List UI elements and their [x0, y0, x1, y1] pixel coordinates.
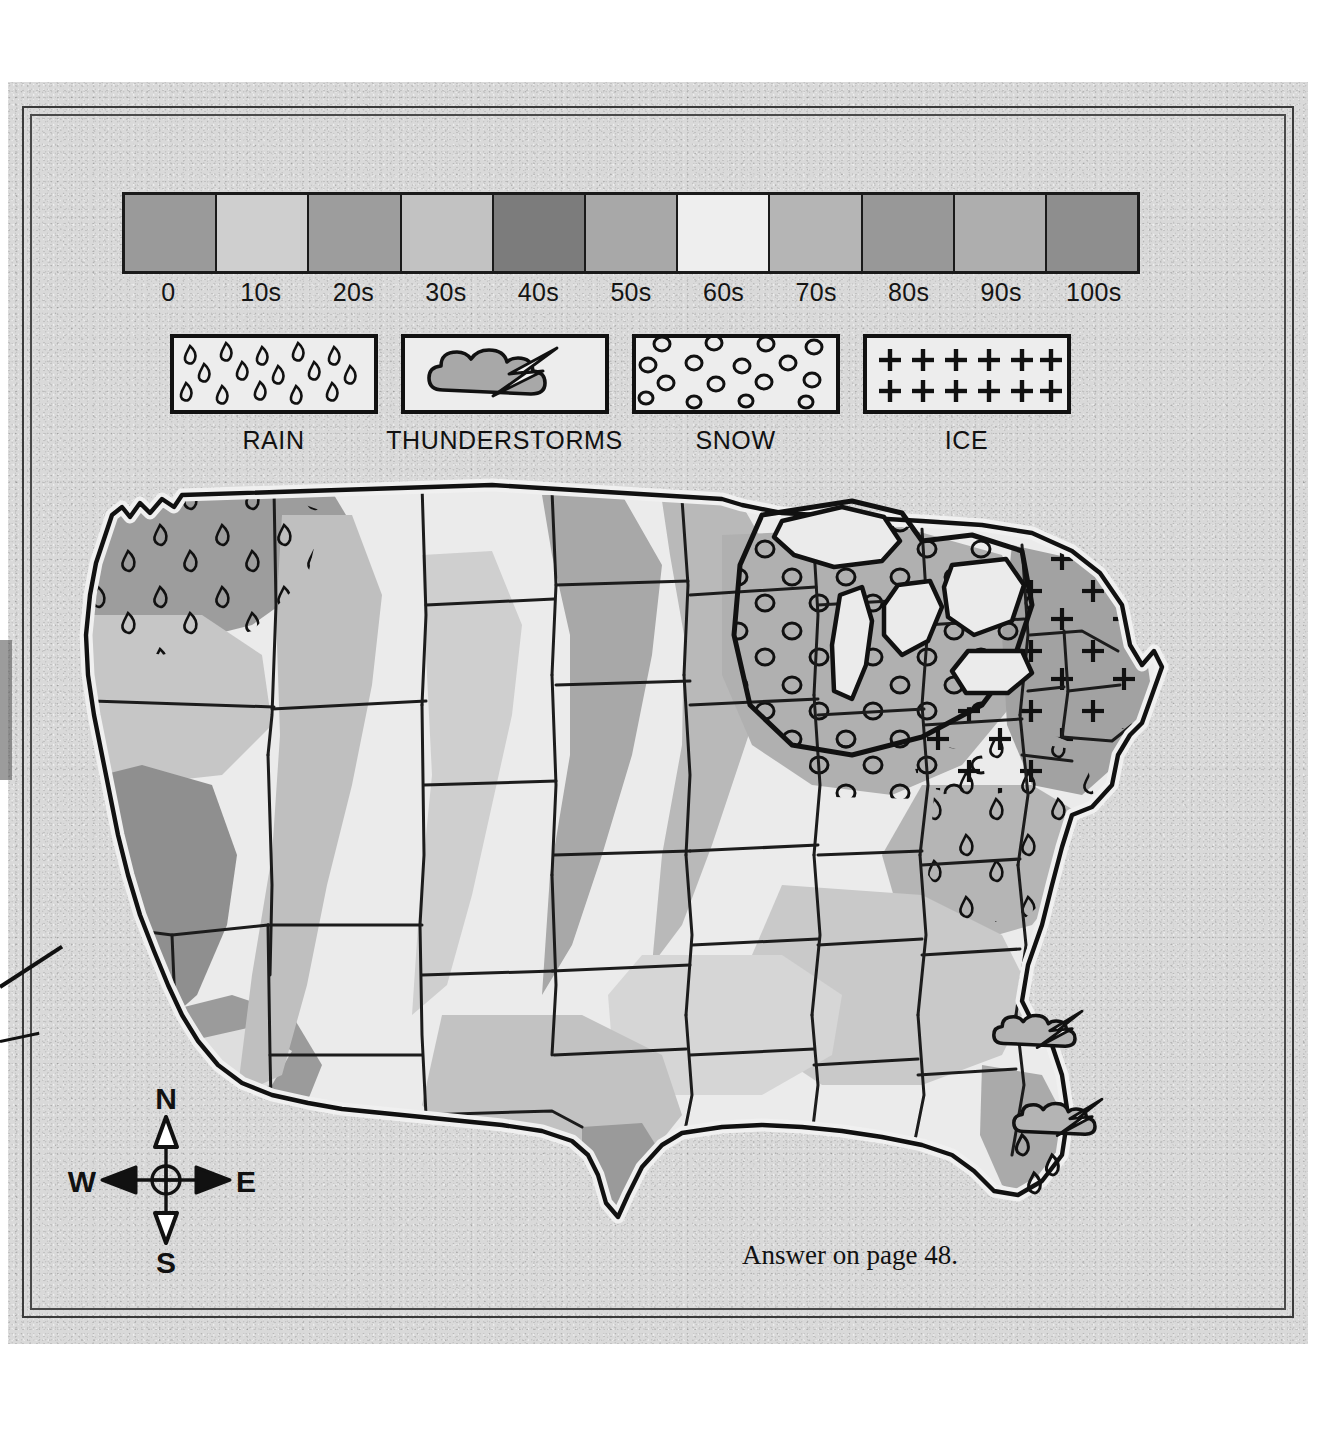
compass-north-arrow: [155, 1117, 177, 1147]
stray-mark-upper: [0, 640, 12, 780]
scale-tick-40s: 40s: [492, 278, 585, 312]
compass-label-east: E: [236, 1165, 256, 1198]
scale-tick-100s: 100s: [1047, 278, 1140, 312]
scale-swatch-20s: [309, 195, 401, 271]
scale-tick-60s: 60s: [677, 278, 770, 312]
rain-swatch-box: [170, 334, 378, 414]
scale-swatch-40s: [494, 195, 586, 271]
scale-swatch-70s: [770, 195, 862, 271]
thunderstorm-cloud-icon: [405, 338, 605, 410]
legend-item-snow: SNOW: [620, 334, 851, 466]
snow-circles-icon: [636, 338, 836, 410]
scale-swatch-60s: [678, 195, 770, 271]
scale-tick-30s: 30s: [400, 278, 493, 312]
compass-south-arrow: [155, 1213, 177, 1243]
snow-swatch-box: [632, 334, 840, 414]
legend-item-ice: ICE: [851, 334, 1082, 466]
legend-item-thunderstorms: THUNDERSTORMS: [389, 334, 620, 466]
scale-swatch-100s: [1047, 195, 1137, 271]
scale-tick-90s: 90s: [955, 278, 1048, 312]
scale-swatch-30s: [402, 195, 494, 271]
map-page: 0 10s 20s 30s 40s 50s 60s 70s 80s 90s 10…: [0, 0, 1329, 1438]
legend-item-rain: RAIN: [158, 334, 389, 466]
scale-tick-20s: 20s: [307, 278, 400, 312]
temperature-scale-bar: [122, 192, 1140, 274]
ice-swatch-box: [863, 334, 1071, 414]
legend-label-ice: ICE: [945, 426, 988, 455]
compass-label-north: N: [155, 1085, 177, 1115]
scale-swatch-90s: [955, 195, 1047, 271]
compass-rose: N S E W: [60, 1085, 270, 1275]
compass-label-south: S: [156, 1246, 176, 1275]
compass-east-arrow: [196, 1167, 230, 1193]
scale-tick-50s: 50s: [585, 278, 678, 312]
legend-label-snow: SNOW: [695, 426, 775, 455]
scale-tick-labels: 0 10s 20s 30s 40s 50s 60s 70s 80s 90s 10…: [122, 278, 1140, 312]
weather-pattern-legend: RAIN THUNDERSTORMS: [158, 334, 1083, 466]
scale-tick-10s: 10s: [215, 278, 308, 312]
legend-label-rain: RAIN: [242, 426, 304, 455]
compass-label-west: W: [68, 1165, 97, 1198]
scale-swatch-0: [125, 195, 217, 271]
legend-label-thunderstorms: THUNDERSTORMS: [386, 426, 623, 455]
ice-plus-icon: [867, 338, 1067, 410]
answer-reference-text: Answer on page 48.: [742, 1240, 958, 1271]
compass-west-arrow: [102, 1167, 136, 1193]
scale-swatch-10s: [217, 195, 309, 271]
scale-tick-70s: 70s: [770, 278, 863, 312]
rain-drops-icon: [174, 338, 374, 410]
scale-tick-80s: 80s: [862, 278, 955, 312]
scale-tick-0: 0: [122, 278, 215, 312]
thunderstorm-swatch-box: [401, 334, 609, 414]
scale-swatch-80s: [863, 195, 955, 271]
scale-swatch-50s: [586, 195, 678, 271]
